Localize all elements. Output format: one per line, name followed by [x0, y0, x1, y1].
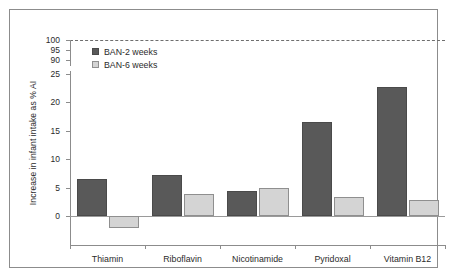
- x-tick-5: [445, 245, 446, 249]
- y-tick-15: 15: [66, 131, 70, 132]
- legend-swatch-icon-ban-2-weeks: [92, 48, 99, 55]
- bar-thiamin-ban-2-weeks: [77, 179, 107, 216]
- y-tick-label-90: 90: [51, 55, 60, 65]
- legend: BAN-2 weeks BAN-6 weeks: [92, 45, 157, 71]
- x-axis-label-vitamin-b12: Vitamin B12: [384, 254, 431, 264]
- bar-nicotinamide-ban-2-weeks: [227, 191, 257, 216]
- x-axis-label-riboflavin: Riboflavin: [163, 254, 202, 264]
- legend-item-ban-2-weeks: BAN-2 weeks: [92, 45, 157, 58]
- bar-pyridoxal-ban-6-weeks: [334, 197, 364, 216]
- legend-item-ban-6-weeks: BAN-6 weeks: [92, 58, 157, 71]
- legend-label-ban-2-weeks: BAN-2 weeks: [104, 47, 157, 57]
- y-tick-label-95: 95: [51, 45, 60, 55]
- y-tick-label-0: 0: [55, 211, 60, 221]
- x-axis-line: [70, 245, 445, 246]
- x-tick-2: [220, 245, 221, 249]
- bar-pyridoxal-ban-2-weeks: [302, 122, 332, 216]
- y-tick-label-20: 20: [51, 97, 60, 107]
- y-tick-0: 0: [66, 216, 70, 217]
- legend-swatch-icon-ban-6-weeks: [92, 61, 99, 68]
- bar-vitamin-b12-ban-2-weeks: [377, 87, 407, 216]
- y-tick-10: 10: [66, 159, 70, 160]
- bar-riboflavin-ban-2-weeks: [152, 175, 182, 216]
- bar-nicotinamide-ban-6-weeks: [259, 188, 289, 216]
- x-axis-label-nicotinamide: Nicotinamide: [232, 254, 283, 264]
- y-axis-spine-upper: [70, 40, 71, 66]
- plot-area: 100 95 90 25 20 15 10 5: [70, 38, 445, 245]
- y-tick-100: 100: [66, 40, 70, 41]
- y-tick-label-25: 25: [51, 69, 60, 79]
- x-axis-label-thiamin: Thiamin: [92, 254, 123, 264]
- y-axis-spine-lower: [70, 71, 71, 245]
- y-tick-95: 95: [66, 50, 70, 51]
- bar-vitamin-b12-ban-6-weeks: [409, 200, 439, 216]
- y-tick-label-100: 100: [46, 35, 60, 45]
- reference-line-100: [70, 40, 445, 41]
- figure-frame: Increase in infant intake as % AI 100 95…: [9, 9, 438, 268]
- y-tick-20: 20: [66, 102, 70, 103]
- figure: Increase in infant intake as % AI 100 95…: [0, 0, 449, 279]
- y-tick-5: 5: [66, 188, 70, 189]
- legend-label-ban-6-weeks: BAN-6 weeks: [104, 60, 157, 70]
- y-tick-90: 90: [66, 60, 70, 61]
- y-axis-title: Increase in infant intake as % AI: [28, 63, 38, 223]
- x-tick-4: [370, 245, 371, 249]
- y-tick-25: 25: [66, 74, 70, 75]
- y-tick-label-15: 15: [51, 126, 60, 136]
- bar-riboflavin-ban-6-weeks: [184, 194, 214, 216]
- x-tick-3: [295, 245, 296, 249]
- x-axis-label-pyridoxal: Pyridoxal: [314, 254, 350, 264]
- y-tick-label-5: 5: [55, 183, 60, 193]
- x-tick-1: [145, 245, 146, 249]
- x-tick-0: [70, 245, 71, 249]
- y-tick-label-10: 10: [51, 154, 60, 164]
- bar-thiamin-ban-6-weeks: [109, 216, 139, 228]
